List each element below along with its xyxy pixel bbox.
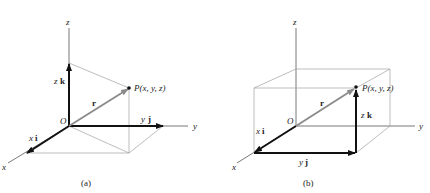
y-axis-label-a: y <box>192 121 197 131</box>
point-label-a: P(x, y, z) <box>133 83 166 93</box>
svg-text:i: i <box>35 133 38 143</box>
svg-text:z: z <box>360 110 365 120</box>
panel-a: z y x O P(x, y, z) r z k y j x i (a) <box>1 17 197 188</box>
svg-text:k: k <box>60 76 65 86</box>
svg-text:x: x <box>255 126 260 136</box>
zk-label-a: z k <box>53 76 65 86</box>
yj-label-a: y j <box>140 114 151 124</box>
point-p-a <box>127 86 131 90</box>
z-axis-label-b: z <box>292 17 297 27</box>
panel-b: z y x O P(x, y, z) r x i y j z k (b) <box>231 17 423 188</box>
vector-diagram: z y x O P(x, y, z) r z k y j x i (a) <box>0 0 430 193</box>
xi-label-b: x i <box>255 126 265 136</box>
zk-label-b: z k <box>360 110 372 120</box>
svg-text:x: x <box>28 133 33 143</box>
svg-text:k: k <box>367 110 372 120</box>
origin-label-b: O <box>287 116 294 126</box>
xi-label-a: x i <box>28 133 38 143</box>
svg-text:y: y <box>298 157 303 167</box>
svg-text:i: i <box>262 126 265 136</box>
r-vector-b <box>296 89 354 126</box>
point-label-b: P(x, y, z) <box>361 83 394 93</box>
z-axis-label-a: z <box>65 17 70 27</box>
caption-b: (b) <box>303 178 314 188</box>
yj-label-b: y j <box>298 157 308 167</box>
xi-vector-a <box>27 126 69 153</box>
caption-a: (a) <box>81 178 91 188</box>
r-vector-a <box>69 89 128 126</box>
svg-text:z: z <box>53 76 58 86</box>
svg-text:y: y <box>140 114 145 124</box>
x-axis-label-a: x <box>1 162 6 172</box>
r-label-a: r <box>92 98 96 108</box>
r-label-b: r <box>320 98 324 108</box>
origin-label-a: O <box>60 116 67 126</box>
x-axis-label-b: x <box>231 162 236 172</box>
point-p-b <box>354 85 358 89</box>
svg-text:j: j <box>304 157 308 167</box>
svg-text:j: j <box>147 114 151 124</box>
y-axis-label-b: y <box>418 121 423 131</box>
